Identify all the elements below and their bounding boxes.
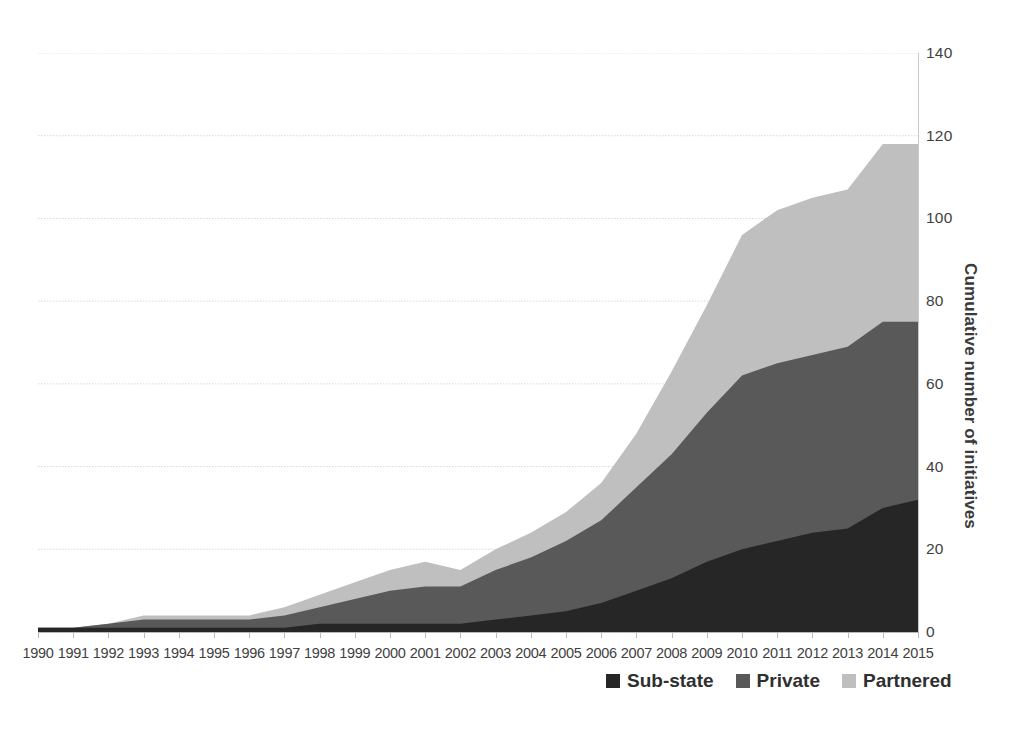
legend-label: Partnered (863, 671, 952, 690)
x-tick-mark (883, 633, 884, 638)
x-tick-mark (249, 633, 250, 638)
y-tick-label: 0 (926, 624, 970, 640)
x-tick-mark (812, 633, 813, 638)
x-tick-mark (460, 633, 461, 638)
legend-label: Sub-state (627, 671, 714, 690)
legend-swatch-icon (842, 674, 856, 688)
y-axis-title: Cumulative number of initiatives (955, 196, 985, 596)
x-tick-label: 2015 (897, 645, 939, 662)
stacked-area-chart (38, 53, 918, 632)
y-tick-label: 120 (926, 128, 970, 144)
x-tick-mark (355, 633, 356, 638)
legend-swatch-icon (606, 674, 620, 688)
x-tick-mark (601, 633, 602, 638)
x-tick-mark (672, 633, 673, 638)
x-tick-mark (425, 633, 426, 638)
x-tick-mark (777, 633, 778, 638)
x-axis-tick-labels: 1990199119921993199419951996199719981999… (25, 645, 940, 667)
x-tick-mark (707, 633, 708, 638)
x-tick-mark (636, 633, 637, 638)
x-tick-mark (284, 633, 285, 638)
legend-label: Private (757, 671, 820, 690)
x-tick-mark (566, 633, 567, 638)
x-tick-mark (320, 633, 321, 638)
legend-swatch-icon (736, 674, 750, 688)
y-axis-line (918, 53, 919, 633)
x-tick-mark (144, 633, 145, 638)
x-tick-mark (108, 633, 109, 638)
legend-item-partnered[interactable]: Partnered (842, 671, 952, 690)
plot-area (38, 53, 918, 632)
chart-legend: Sub-statePrivatePartnered (606, 671, 952, 690)
x-tick-mark (918, 633, 919, 638)
chart-page: 140120100806040200 Cumulative number of … (0, 0, 1021, 730)
y-tick-label: 140 (926, 45, 970, 61)
x-tick-mark (214, 633, 215, 638)
x-tick-mark (390, 633, 391, 638)
x-tick-mark (848, 633, 849, 638)
x-tick-mark (179, 633, 180, 638)
area-series-group (38, 144, 918, 632)
y-axis-title-text: Cumulative number of initiatives (960, 263, 980, 529)
x-tick-mark (73, 633, 74, 638)
x-tick-mark (496, 633, 497, 638)
x-axis-tick-marks (38, 633, 918, 639)
x-tick-mark (742, 633, 743, 638)
legend-item-private[interactable]: Private (736, 671, 820, 690)
legend-item-sub-state[interactable]: Sub-state (606, 671, 714, 690)
x-tick-mark (531, 633, 532, 638)
x-tick-mark (38, 633, 39, 638)
